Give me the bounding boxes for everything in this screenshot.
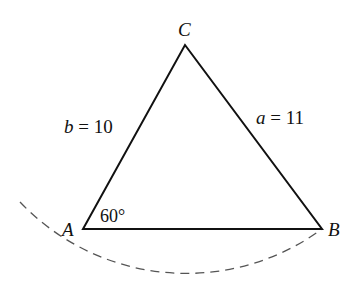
side-b-var: b [64, 116, 74, 137]
vertex-label-c: C [178, 19, 191, 40]
side-b-eq: = [74, 116, 94, 137]
triangle-diagram: C A B 60° b = 10 a = 11 [0, 0, 362, 288]
vertex-label-a: A [60, 219, 74, 240]
side-a-eq: = [266, 107, 286, 128]
triangle-abc [83, 45, 322, 229]
side-a-var: a [256, 107, 266, 128]
side-a-value: 11 [286, 107, 304, 128]
side-b-value: 10 [94, 116, 113, 137]
angle-a-label: 60° [100, 206, 125, 226]
side-b-label: b = 10 [64, 116, 113, 137]
side-a-label: a = 11 [256, 107, 304, 128]
vertex-label-b: B [328, 219, 340, 240]
